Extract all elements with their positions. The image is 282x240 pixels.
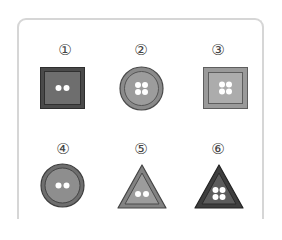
- item-6: ⑥: [183, 141, 253, 157]
- square-button-four-holes-icon: [203, 67, 248, 109]
- item-label: ⑤: [106, 141, 176, 157]
- item-2: ②: [106, 42, 176, 58]
- item-label: ③: [183, 42, 253, 58]
- item-label: ①: [30, 42, 100, 58]
- item-1: ①: [30, 42, 100, 58]
- item-label: ⑥: [183, 141, 253, 157]
- triangle-button-four-holes-icon: [194, 164, 244, 210]
- square-button-two-holes-icon: [40, 67, 85, 109]
- item-5: ⑤: [106, 141, 176, 157]
- round-button-two-holes-icon: [40, 163, 85, 208]
- item-4: ④: [28, 141, 98, 157]
- round-button-four-holes-icon: [119, 66, 164, 111]
- item-3: ③: [183, 42, 253, 58]
- triangle-button-two-holes-icon: [117, 164, 167, 210]
- item-label: ②: [106, 42, 176, 58]
- item-label: ④: [28, 141, 98, 157]
